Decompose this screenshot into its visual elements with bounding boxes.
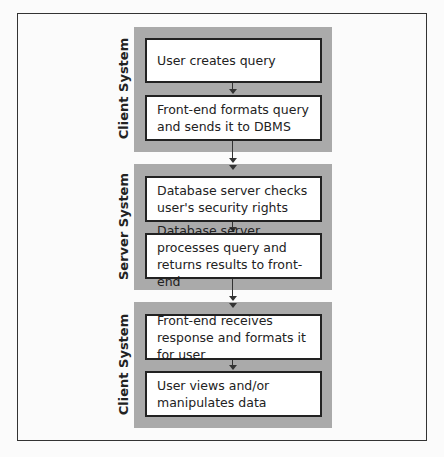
arrow-down-icon	[229, 89, 237, 94]
section-label-server: Server System	[116, 157, 131, 297]
step-processes-query: Database server processes query and retu…	[145, 233, 322, 279]
step-receives-response: Front-end receives response and formats …	[145, 314, 322, 360]
section-label-client-2: Client System	[116, 295, 131, 435]
section-label-client-1: Client System	[116, 19, 131, 159]
connector-line	[232, 141, 233, 159]
arrow-down-icon	[229, 365, 237, 370]
step-user-views-data: User views and/or manipulates data	[145, 371, 322, 417]
arrow-down-icon	[229, 303, 237, 308]
step-checks-security-rights: Database server checks user's security r…	[145, 176, 322, 222]
connector-line	[232, 279, 233, 297]
arrow-down-icon	[229, 165, 237, 170]
step-user-creates-query: User creates query	[145, 38, 322, 83]
arrow-down-icon	[229, 158, 237, 163]
arrow-down-icon	[229, 296, 237, 301]
step-front-end-formats-query: Front-end formats query and sends it to …	[145, 95, 322, 141]
